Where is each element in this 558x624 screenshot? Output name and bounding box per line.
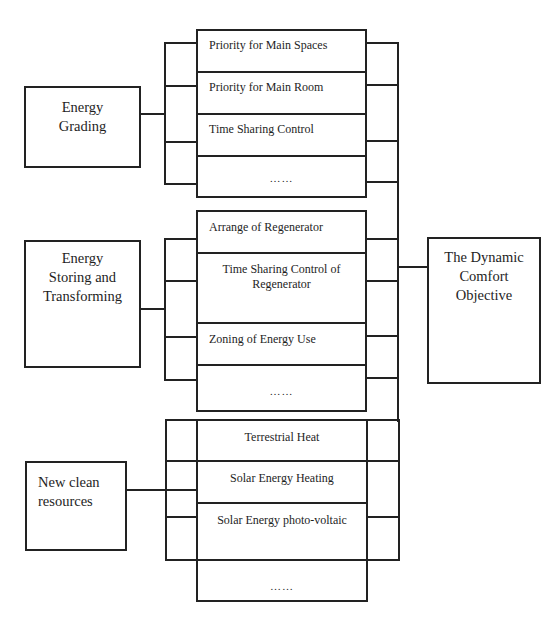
energy-grading-line-2: Grading xyxy=(24,117,141,136)
connector-spine-to-target xyxy=(397,266,428,268)
bracket-right-top-tick-4 xyxy=(366,181,399,183)
dynamic-comfort-line-3: Objective xyxy=(427,286,541,305)
storing-item-4: …… xyxy=(196,384,367,399)
clean-item-3: Solar Energy photo-voltaic xyxy=(196,513,368,528)
energy-storing-line-3: Transforming xyxy=(24,287,141,306)
storing-item-2-line-1: Time Sharing Control of xyxy=(196,262,367,277)
storing-item-2: Time Sharing Control of Regenerator xyxy=(196,262,367,292)
bracket-left-top-tick-1 xyxy=(164,42,197,44)
bracket-right-mid-tick-3 xyxy=(366,335,399,337)
dynamic-comfort-line-2: Comfort xyxy=(427,267,541,286)
bracket-left-mid-tick-1 xyxy=(164,238,197,240)
connector-grading-to-bracket xyxy=(140,113,166,115)
bracket-left-top-tick-2 xyxy=(164,85,197,87)
energy-storing-line-1: Energy xyxy=(24,249,141,268)
grading-item-3: Time Sharing Control xyxy=(209,122,314,137)
energy-grading-line-1: Energy xyxy=(24,98,141,117)
dynamic-comfort-label: The Dynamic Comfort Objective xyxy=(427,248,541,305)
bracket-bottom-right-tick-2 xyxy=(366,460,399,462)
bracket-bottom-right-tick-3 xyxy=(366,516,399,518)
bracket-right-mid-tick-2 xyxy=(366,280,399,282)
storing-item-3: Zoning of Energy Use xyxy=(209,332,316,347)
grading-item-2: Priority for Main Room xyxy=(209,80,323,95)
bracket-right-mid-tick-4 xyxy=(366,377,399,379)
bracket-left-mid-tick-3 xyxy=(164,336,197,338)
energy-grading-label: Energy Grading xyxy=(24,98,141,136)
bracket-right-spine xyxy=(397,42,399,422)
clean-item-1: Terrestrial Heat xyxy=(196,430,368,445)
connector-storing-to-bracket xyxy=(140,308,166,310)
bracket-left-mid-tick-2 xyxy=(164,280,197,282)
new-clean-line-2: resources xyxy=(38,492,100,511)
bracket-left-mid xyxy=(164,238,166,381)
clean-item-box-3 xyxy=(196,502,368,561)
new-clean-resources-label: New clean resources xyxy=(38,473,100,511)
storing-item-1: Arrange of Regenerator xyxy=(209,220,323,235)
bracket-left-top xyxy=(164,42,166,185)
storing-item-2-line-2: Regenerator xyxy=(196,277,367,292)
clean-item-2: Solar Energy Heating xyxy=(196,471,368,486)
bracket-right-top-tick-3 xyxy=(366,140,399,142)
bracket-left-mid-tick-4 xyxy=(164,379,197,381)
energy-storing-label: Energy Storing and Transforming xyxy=(24,249,141,306)
bracket-bottom-left-tick-2 xyxy=(165,460,197,462)
bracket-right-top-tick-1 xyxy=(366,42,399,44)
bracket-right-top-tick-2 xyxy=(366,84,399,86)
clean-item-4: …… xyxy=(196,579,368,594)
bracket-left-top-tick-4 xyxy=(164,183,197,185)
new-clean-line-1: New clean xyxy=(38,473,100,492)
bracket-right-mid-tick-1 xyxy=(366,238,399,240)
bracket-bottom-left-tick-3 xyxy=(165,516,197,518)
dynamic-comfort-line-1: The Dynamic xyxy=(427,248,541,267)
energy-storing-line-2: Storing and xyxy=(24,268,141,287)
bracket-left-top-tick-3 xyxy=(164,141,197,143)
grading-item-1: Priority for Main Spaces xyxy=(209,38,327,53)
grading-item-4: …… xyxy=(196,171,367,186)
